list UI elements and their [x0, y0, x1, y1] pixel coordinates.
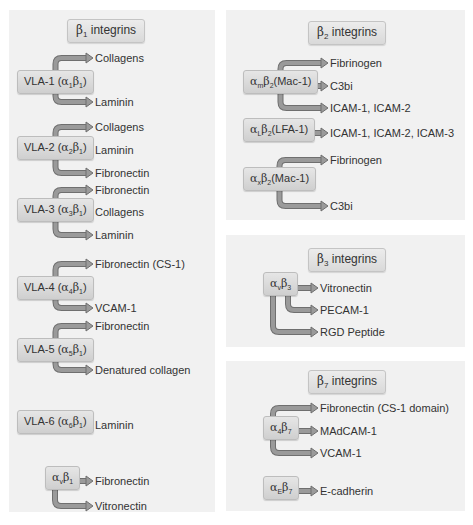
- binding-arrow: [56, 362, 88, 370]
- binding-arrow: [56, 127, 88, 136]
- binding-arrow: [55, 490, 87, 506]
- integrin-node: VLA-2 (α2β1): [17, 136, 94, 160]
- arrow-head-icon: [311, 327, 318, 337]
- binding-arrow: [56, 264, 88, 276]
- arrow-head-icon: [86, 230, 93, 240]
- binding-arrow: [56, 300, 88, 308]
- binding-arrow: [281, 63, 323, 70]
- integrin-node: αvβ1: [45, 466, 80, 490]
- node-suffix: (LFA-1): [272, 123, 309, 135]
- alpha-symbol: α: [61, 415, 68, 428]
- binding-arrow: [56, 160, 88, 173]
- arrow-head-icon: [321, 103, 328, 113]
- integrin-node: VLA-3 (α3β1): [17, 198, 94, 222]
- node-suffix: ): [83, 281, 87, 293]
- integrin-node: VLA-1 (α1β1): [17, 70, 94, 94]
- arrow-head-icon: [86, 501, 93, 511]
- binding-arrow: [273, 296, 312, 332]
- binding-arrow: [280, 160, 323, 167]
- binding-arrow: [56, 222, 88, 235]
- node-suffix: (Mac-1): [271, 172, 309, 184]
- alpha-symbol: α: [61, 343, 68, 356]
- arrow-head-icon: [321, 81, 328, 91]
- beta-subscript: 3: [287, 284, 291, 291]
- arrow-head-icon: [86, 185, 93, 195]
- integrin-node: αvβ3: [263, 272, 298, 296]
- binding-arrow: [56, 58, 88, 70]
- integrin-node: αxβ2(Mac-1): [243, 167, 316, 191]
- node-prefix: VLA-4 (: [24, 281, 61, 293]
- binding-arrow: [56, 190, 88, 198]
- node-suffix: (Mac-1): [274, 75, 312, 87]
- node-suffix: ): [83, 141, 87, 153]
- node-prefix: VLA-3 (: [24, 203, 61, 215]
- arrow-head-icon: [311, 305, 318, 315]
- integrin-node: αmβ2(Mac-1): [243, 70, 318, 94]
- integrin-node: VLA-4 (α4β1): [17, 276, 94, 300]
- arrow-head-icon: [321, 128, 328, 138]
- arrow-head-icon: [86, 168, 93, 178]
- binding-arrow: [288, 296, 312, 310]
- node-prefix: VLA-6 (: [24, 415, 61, 427]
- node-prefix: VLA-2 (: [24, 141, 61, 153]
- node-suffix: ): [83, 75, 87, 87]
- arrow-head-icon: [86, 259, 93, 269]
- integrin-node: α4β7: [263, 416, 299, 440]
- arrow-head-icon: [321, 58, 328, 68]
- binding-arrow: [273, 440, 312, 453]
- alpha-symbol: α: [61, 75, 68, 88]
- node-suffix: ): [83, 415, 87, 427]
- integrin-node: VLA-6 (α6β1): [17, 410, 94, 434]
- integrin-node: VLA-5 (α5β1): [17, 338, 94, 362]
- binding-arrow: [56, 326, 88, 338]
- arrow-head-icon: [321, 201, 328, 211]
- alpha-symbol: α: [61, 141, 68, 154]
- node-prefix: VLA-1 (: [24, 75, 61, 87]
- arrow-head-icon: [86, 122, 93, 132]
- alpha-symbol: α: [61, 203, 68, 216]
- node-prefix: VLA-5 (: [24, 343, 61, 355]
- binding-arrow: [273, 408, 312, 416]
- binding-arrow: [56, 94, 88, 102]
- arrow-head-icon: [86, 476, 93, 486]
- node-suffix: ): [83, 343, 87, 355]
- arrow-head-icon: [86, 53, 93, 63]
- binding-arrow: [280, 191, 323, 206]
- alpha-symbol: α: [61, 281, 68, 294]
- beta-subscript: 7: [288, 428, 292, 435]
- arrow-head-icon: [311, 448, 318, 458]
- arrow-head-icon: [86, 365, 93, 375]
- arrow-head-icon: [311, 283, 318, 293]
- arrow-head-icon: [321, 155, 328, 165]
- beta-subscript: 1: [69, 478, 73, 485]
- integrin-node: αLβ2(LFA-1): [243, 118, 315, 142]
- arrow-head-icon: [311, 486, 318, 496]
- arrow-head-icon: [311, 426, 318, 436]
- arrow-head-icon: [86, 321, 93, 331]
- arrow-head-icon: [86, 303, 93, 313]
- arrow-head-icon: [86, 97, 93, 107]
- arrow-head-icon: [311, 403, 318, 413]
- integrin-node: αEβ7: [263, 476, 299, 500]
- binding-arrow: [281, 94, 323, 108]
- beta-subscript: 7: [288, 488, 292, 495]
- node-suffix: ): [83, 203, 87, 215]
